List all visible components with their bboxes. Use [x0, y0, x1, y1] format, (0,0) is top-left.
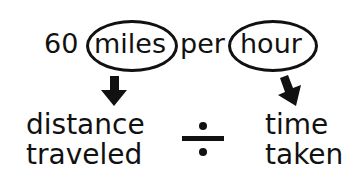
- right-meaning: time taken: [265, 110, 343, 170]
- label-time: time: [265, 110, 343, 140]
- word-hour: hour: [240, 30, 302, 57]
- label-distance: distance: [26, 110, 145, 140]
- number-60: 60: [44, 30, 78, 57]
- label-traveled: traveled: [26, 140, 145, 170]
- word-miles: miles: [94, 30, 166, 57]
- divide-icon: [180, 118, 226, 160]
- arrow-down-left-icon: [96, 74, 132, 110]
- arrow-down-right-icon: [272, 74, 308, 110]
- word-per: per: [180, 30, 225, 57]
- label-taken: taken: [265, 140, 343, 170]
- left-meaning: distance traveled: [26, 110, 145, 170]
